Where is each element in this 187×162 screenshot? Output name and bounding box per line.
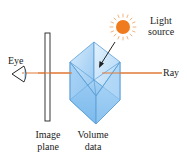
ray-label: Ray — [163, 67, 179, 78]
volume-data-cube — [70, 42, 120, 124]
image-plane — [45, 33, 50, 121]
sun-icon — [110, 14, 136, 40]
image-plane-label-line1: Image — [35, 129, 61, 140]
light-source-label-line1: Light — [150, 15, 172, 26]
volume-data-label-line1: Volume — [76, 129, 110, 140]
light-source-label-line2: source — [148, 26, 174, 37]
eye-label: Eye — [8, 55, 24, 66]
eye-icon — [12, 66, 26, 82]
image-plane-label-line2: plane — [35, 141, 61, 152]
volume-data-label-line2: data — [76, 141, 110, 152]
